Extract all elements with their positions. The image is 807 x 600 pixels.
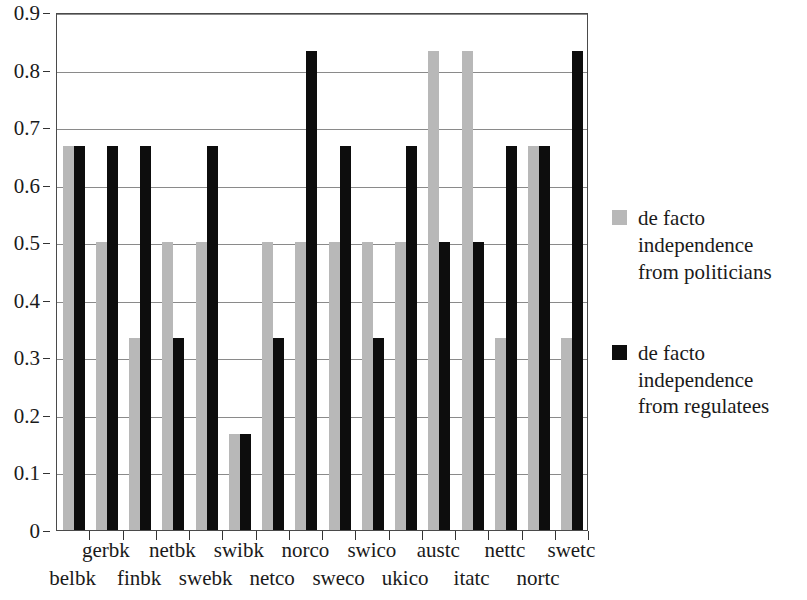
chart-legend: de facto independence from politicians d… bbox=[612, 205, 807, 474]
bar bbox=[495, 338, 506, 530]
bar bbox=[373, 338, 384, 530]
bar-group bbox=[162, 14, 184, 530]
bar bbox=[229, 434, 240, 530]
legend-label-line2: independence bbox=[638, 232, 807, 259]
y-tick-label: 0.2 bbox=[14, 405, 40, 426]
x-category-label: swibk bbox=[214, 540, 264, 561]
bar-group bbox=[329, 14, 351, 530]
bar bbox=[162, 242, 173, 530]
y-tick-label: 0.9 bbox=[14, 3, 40, 24]
x-category-label: nettc bbox=[484, 540, 525, 561]
y-tick-mark bbox=[43, 358, 50, 359]
plot-area bbox=[56, 13, 588, 531]
y-tick-mark bbox=[43, 531, 50, 532]
bar bbox=[63, 146, 74, 530]
bar bbox=[306, 51, 317, 530]
x-axis-labels: belbkgerbkfinbknetbkswebkswibknetconorco… bbox=[0, 540, 660, 600]
bar bbox=[196, 242, 207, 530]
x-category-label: swico bbox=[347, 540, 396, 561]
y-axis: 00.10.20.30.40.50.60.70.80.9 bbox=[0, 13, 50, 531]
bar bbox=[439, 242, 450, 530]
x-category-label: swebk bbox=[179, 568, 233, 589]
y-tick-label: 0.4 bbox=[14, 290, 40, 311]
bars-layer bbox=[57, 14, 587, 530]
bar-group bbox=[262, 14, 284, 530]
bar bbox=[561, 338, 572, 530]
bar bbox=[273, 338, 284, 530]
x-category-label: itatc bbox=[454, 568, 490, 589]
y-tick-label: 0.5 bbox=[14, 233, 40, 254]
bar-group bbox=[395, 14, 417, 530]
bar bbox=[362, 242, 373, 530]
bar bbox=[473, 242, 484, 530]
bar bbox=[96, 242, 107, 530]
x-category-label: austc bbox=[417, 540, 460, 561]
x-category-label: belbk bbox=[49, 568, 96, 589]
bar-group bbox=[129, 14, 151, 530]
y-tick-mark bbox=[43, 416, 50, 417]
legend-entry-politicians: de facto independence from politicians bbox=[612, 205, 807, 286]
bar-group bbox=[495, 14, 517, 530]
legend-label-line1: de facto bbox=[638, 340, 807, 367]
bar bbox=[406, 146, 417, 530]
legend-label-line3: from regulatees bbox=[638, 393, 807, 420]
bar bbox=[240, 434, 251, 530]
y-tick-label: 0.7 bbox=[14, 118, 40, 139]
bar bbox=[173, 338, 184, 530]
bar bbox=[528, 146, 539, 530]
legend-label-line2: independence bbox=[638, 367, 807, 394]
y-tick-mark bbox=[43, 186, 50, 187]
y-tick-label: 0.8 bbox=[14, 60, 40, 81]
y-tick-label: 0.1 bbox=[14, 463, 40, 484]
bar-chart-figure: 00.10.20.30.40.50.60.70.80.9 belbkgerbkf… bbox=[0, 0, 807, 600]
y-tick-mark bbox=[43, 473, 50, 474]
legend-swatch-gray-icon bbox=[612, 210, 627, 225]
legend-label-line1: de facto bbox=[638, 205, 807, 232]
x-category-label: netco bbox=[249, 568, 294, 589]
bar-group bbox=[96, 14, 118, 530]
x-category-label: nortc bbox=[517, 568, 560, 589]
legend-swatch-black-icon bbox=[612, 345, 627, 360]
bar bbox=[506, 146, 517, 530]
y-tick-mark bbox=[43, 243, 50, 244]
bar bbox=[462, 51, 473, 530]
y-tick-mark bbox=[43, 128, 50, 129]
legend-entry-regulatees: de facto independence from regulatees bbox=[612, 340, 807, 421]
x-category-label: swetc bbox=[547, 540, 595, 561]
bar bbox=[207, 146, 218, 530]
bar bbox=[262, 242, 273, 530]
bar-group bbox=[229, 14, 251, 530]
bar bbox=[295, 242, 306, 530]
y-tick-label: 0.3 bbox=[14, 348, 40, 369]
x-category-label: norco bbox=[281, 540, 329, 561]
y-tick-mark bbox=[43, 13, 50, 14]
bar bbox=[129, 338, 140, 530]
bar bbox=[340, 146, 351, 530]
bar-group bbox=[428, 14, 450, 530]
bar-group bbox=[63, 14, 85, 530]
y-tick-mark bbox=[43, 301, 50, 302]
bar bbox=[329, 242, 340, 530]
bar-group bbox=[561, 14, 583, 530]
bar bbox=[428, 51, 439, 530]
bar-group bbox=[295, 14, 317, 530]
bar bbox=[140, 146, 151, 530]
x-category-label: gerbk bbox=[82, 540, 130, 561]
x-category-label: ukico bbox=[382, 568, 429, 589]
bar-group bbox=[462, 14, 484, 530]
bar bbox=[572, 51, 583, 530]
y-tick-label: 0 bbox=[30, 521, 41, 542]
bar-group bbox=[196, 14, 218, 530]
x-category-label: sweco bbox=[312, 568, 364, 589]
bar bbox=[395, 242, 406, 530]
bar bbox=[539, 146, 550, 530]
y-tick-mark bbox=[43, 71, 50, 72]
y-tick-label: 0.6 bbox=[14, 175, 40, 196]
bar bbox=[107, 146, 118, 530]
bar bbox=[74, 146, 85, 530]
x-category-label: netbk bbox=[149, 540, 196, 561]
bar-group bbox=[362, 14, 384, 530]
x-category-label: finbk bbox=[117, 568, 161, 589]
legend-label-line3: from politicians bbox=[638, 259, 807, 286]
bar-group bbox=[528, 14, 550, 530]
